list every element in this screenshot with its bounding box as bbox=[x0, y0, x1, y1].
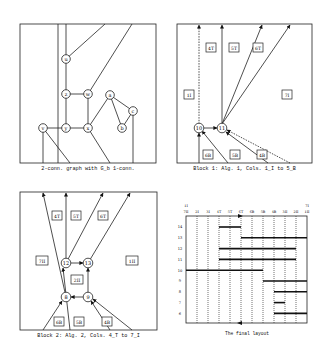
column-label: 2I bbox=[195, 210, 199, 214]
block2-caption: Block 2: Alg. 2, Cols. 4_T to 7_I bbox=[20, 333, 157, 339]
svg-text:v: v bbox=[41, 125, 45, 131]
svg-text:13: 13 bbox=[85, 260, 91, 266]
column-label: 1II bbox=[305, 210, 310, 214]
graph-caption: 2-conn. graph with G_b 1-conn. bbox=[20, 166, 156, 172]
svg-text:a: a bbox=[109, 92, 112, 98]
row-label: 6 bbox=[179, 312, 182, 316]
column-label: 6B bbox=[250, 210, 255, 214]
node-x: x bbox=[84, 124, 93, 133]
svg-text:1II: 1II bbox=[129, 259, 136, 264]
svg-text:6B: 6B bbox=[56, 320, 63, 325]
row-label: 10 bbox=[178, 269, 183, 273]
row-label: 8 bbox=[179, 290, 182, 294]
svg-text:5B: 5B bbox=[232, 153, 239, 158]
top-arrow-icon bbox=[238, 214, 243, 218]
node-a: a bbox=[106, 91, 115, 100]
svg-text:y: y bbox=[64, 125, 68, 132]
node-10: 10 bbox=[194, 123, 204, 133]
node-u: u bbox=[62, 55, 71, 64]
column-label: 5B bbox=[261, 210, 266, 214]
svg-text:4B: 4B bbox=[259, 153, 266, 158]
svg-text:z: z bbox=[65, 91, 68, 97]
figure-canvas: u z w a c b v y x 10 11 4T 5T 6T 1I 7I 6… bbox=[0, 0, 327, 362]
node-13: 13 bbox=[83, 258, 93, 268]
svg-text:6T: 6T bbox=[255, 46, 261, 51]
block1-caption: Block 1: Alg. 1, Cols. 1_I to 5_B bbox=[177, 166, 312, 172]
layout-caption: The final layout bbox=[186, 331, 308, 336]
column-label: 7II bbox=[184, 210, 189, 214]
block2-faces: 4T 5T 6T 7II 1II 2II 6B 5B 4B bbox=[36, 211, 138, 326]
row-label: 9 bbox=[179, 279, 182, 283]
svg-text:8: 8 bbox=[64, 294, 67, 300]
svg-text:7I: 7I bbox=[285, 93, 290, 98]
svg-text:4T: 4T bbox=[54, 214, 60, 219]
svg-text:4B: 4B bbox=[104, 320, 111, 325]
layout-panel: 7II2I3I4T5T6T6B5B4B3II2II1II1I7I14131211… bbox=[178, 204, 310, 325]
svg-text:6B: 6B bbox=[205, 153, 212, 158]
svg-text:10: 10 bbox=[196, 125, 202, 131]
svg-text:5B: 5B bbox=[76, 320, 83, 325]
column-label: 5T bbox=[228, 210, 233, 214]
top-left-label: 1I bbox=[184, 204, 188, 208]
row-label: 12 bbox=[178, 247, 183, 251]
top-right-label: 7I bbox=[305, 204, 309, 208]
node-8: 8 bbox=[61, 292, 71, 302]
node-c: c bbox=[129, 107, 138, 116]
svg-text:w: w bbox=[86, 91, 91, 97]
svg-text:b: b bbox=[120, 125, 123, 131]
svg-text:11: 11 bbox=[219, 125, 225, 131]
column-label: 4B bbox=[272, 210, 277, 214]
row-label: 13 bbox=[178, 236, 183, 240]
node-12: 12 bbox=[61, 258, 71, 268]
row-label: 14 bbox=[178, 225, 183, 229]
svg-text:c: c bbox=[132, 108, 135, 114]
node-9: 9 bbox=[83, 292, 93, 302]
svg-text:x: x bbox=[87, 125, 90, 131]
row-label: 7 bbox=[179, 301, 182, 305]
svg-text:7II: 7II bbox=[39, 259, 46, 264]
node-v: v bbox=[39, 124, 48, 133]
column-label: 3II bbox=[283, 210, 288, 214]
svg-text:5T: 5T bbox=[231, 46, 237, 51]
column-label: 6T bbox=[239, 210, 244, 214]
row-label: 11 bbox=[178, 258, 183, 262]
svg-text:4T: 4T bbox=[208, 46, 214, 51]
svg-text:6T: 6T bbox=[100, 214, 106, 219]
svg-text:12: 12 bbox=[63, 260, 69, 266]
svg-text:2II: 2II bbox=[74, 278, 81, 283]
node-w: w bbox=[84, 90, 93, 99]
column-label: 3I bbox=[206, 210, 210, 214]
svg-text:5T: 5T bbox=[73, 214, 79, 219]
node-z: z bbox=[62, 90, 71, 99]
svg-text:1I: 1I bbox=[187, 93, 192, 98]
svg-text:9: 9 bbox=[86, 294, 89, 300]
node-y: y bbox=[62, 124, 71, 133]
node-11: 11 bbox=[217, 123, 227, 133]
column-label: 4T bbox=[217, 210, 222, 214]
node-b: b bbox=[118, 124, 127, 133]
bottom-arrow-icon bbox=[237, 321, 242, 325]
column-label: 2II bbox=[294, 210, 299, 214]
